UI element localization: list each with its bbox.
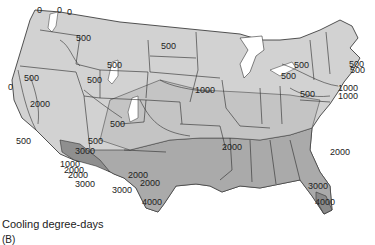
contour-label: 3000 (75, 147, 95, 156)
contour-label: 2000 (140, 179, 160, 188)
contour-label: 500 (88, 137, 103, 146)
contour-label: 4000 (142, 198, 162, 207)
contour-label: 500 (76, 34, 91, 43)
contour-label: 0 (57, 6, 62, 15)
contour-label: 500 (87, 76, 102, 85)
contour-label: 500 (300, 90, 315, 99)
contour-label: 500 (24, 74, 39, 83)
contour-label: 0 (8, 83, 13, 92)
panel-label: (B) (2, 234, 15, 245)
contour-label: 3000 (75, 180, 95, 189)
contour-label: 3000 (308, 182, 328, 191)
contour-label: 1000 (195, 86, 215, 95)
contour-label: 500 (161, 42, 176, 51)
contour-label: 2000 (222, 143, 242, 152)
contour-label: 500 (107, 61, 122, 70)
contour-label: 500 (16, 137, 31, 146)
contour-label: 500 (110, 120, 125, 129)
contour-label: 0 (67, 8, 72, 17)
contour-label: 1000 (338, 92, 358, 101)
contour-label: 500 (294, 61, 309, 70)
us-cooling-degree-days-map (0, 0, 375, 245)
contour-label: 2000 (330, 148, 350, 157)
contour-label: 3000 (112, 186, 132, 195)
contour-label: 0 (37, 6, 42, 15)
figure-caption: Cooling degree-days (2, 218, 104, 230)
contour-label: 500 (281, 72, 296, 81)
contour-label: 2000 (30, 100, 50, 109)
contour-label: 500 (350, 66, 365, 75)
contour-label: 4000 (315, 198, 335, 207)
